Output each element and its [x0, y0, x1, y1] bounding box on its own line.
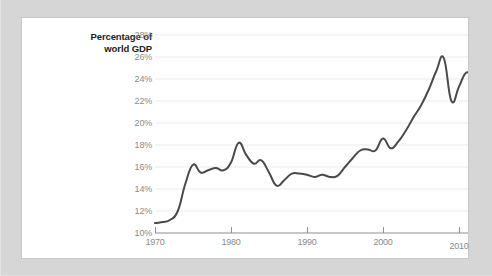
x-tick-label: 1980: [211, 238, 251, 247]
chart-card: Percentage ofworld GDP 28% 26% 24% 22% 2…: [22, 18, 468, 258]
x-tick-label: 2010: [439, 242, 479, 251]
x-tick-label: 1970: [135, 238, 175, 247]
x-tick-label: 2000: [363, 238, 403, 247]
x-axis-tick-labels: 1970 1980 1990 2000 2010: [22, 18, 468, 258]
line-chart: Percentage ofworld GDP 28% 26% 24% 22% 2…: [22, 18, 468, 258]
x-tick-label: 1990: [287, 238, 327, 247]
